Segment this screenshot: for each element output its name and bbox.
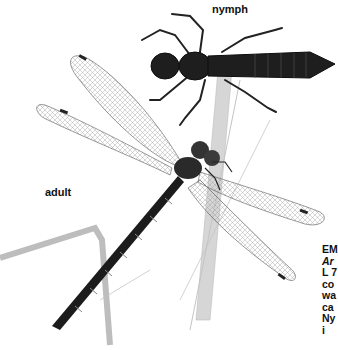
species-caption: EM Ar L 7 co wa ca Ny i xyxy=(322,244,338,336)
nymph-label: nymph xyxy=(212,3,248,15)
dragonfly-illustration xyxy=(0,0,338,350)
caption-line: i xyxy=(322,325,338,337)
nymph-body xyxy=(142,14,335,125)
caption-title: EM xyxy=(322,244,338,256)
caption-line: Ny xyxy=(322,313,338,325)
caption-line: L 7 xyxy=(322,267,338,279)
adult-label: adult xyxy=(45,186,71,198)
caption-line: wa xyxy=(322,290,338,302)
